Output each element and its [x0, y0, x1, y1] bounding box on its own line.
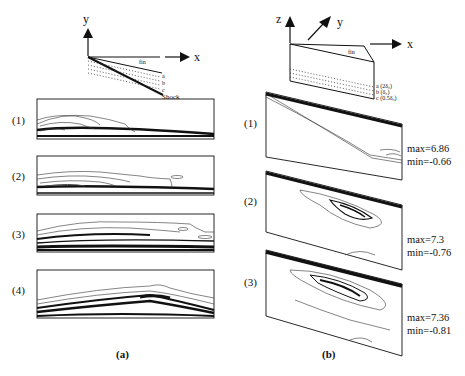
max-value-b1: max=6.86 — [407, 142, 449, 155]
row-label-b1: (1) — [244, 117, 257, 129]
contour-plot-b3 — [266, 250, 402, 356]
min-value-b2: min=-0.76 — [407, 246, 451, 259]
max-value-b2: max=7.3 — [407, 233, 444, 246]
subfigure-label-a: (a) — [116, 348, 129, 360]
min-value-b1: min=-0.66 — [407, 155, 451, 168]
contour-plot-b1 — [266, 92, 402, 180]
row-label-b2: (2) — [244, 195, 257, 207]
row-label-b3: (3) — [244, 276, 257, 288]
min-value-b3: min=-0.81 — [407, 324, 451, 337]
max-value-b3: max=7.36 — [407, 311, 449, 324]
subfigure-label-b: (b) — [322, 348, 335, 360]
panel-b-contour-plots — [0, 0, 465, 376]
